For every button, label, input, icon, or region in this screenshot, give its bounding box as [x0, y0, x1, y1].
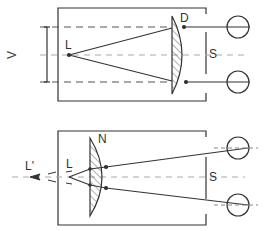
label-bottom-l: L	[66, 157, 73, 171]
bottom-housing	[58, 131, 206, 225]
top-ray-upper	[69, 28, 172, 55]
label-d: D	[180, 11, 189, 25]
label-l-prime: L'	[25, 159, 34, 173]
label-n: N	[98, 132, 107, 146]
top-lens	[172, 16, 182, 94]
bottom-ray-upper	[106, 148, 248, 167]
top-ray-lower	[69, 55, 172, 81]
bottom-panel	[12, 131, 258, 225]
bottom-lens	[90, 138, 102, 216]
optics-diagram: V L D S L' L N S	[0, 0, 274, 231]
label-top-l: L	[65, 38, 72, 52]
top-panel	[40, 8, 250, 101]
label-top-s: S	[209, 47, 217, 61]
label-v: V	[5, 51, 19, 59]
label-bottom-s: S	[209, 170, 217, 184]
virtual-source-arrow	[30, 174, 40, 180]
